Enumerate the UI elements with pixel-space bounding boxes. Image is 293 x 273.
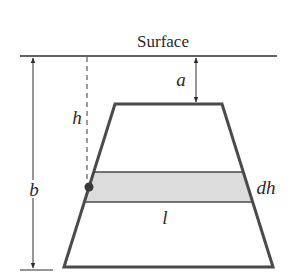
- label-l: l: [162, 207, 167, 228]
- surface-label: Surface: [137, 32, 189, 51]
- trapezoid-plate-diagram: Surface a h b dh l: [0, 0, 293, 273]
- label-dh: dh: [257, 177, 276, 198]
- label-a: a: [176, 69, 186, 90]
- strip-dh: [84, 172, 252, 202]
- label-b: b: [29, 179, 39, 200]
- depth-point-dot: [85, 183, 94, 192]
- label-h: h: [72, 107, 82, 128]
